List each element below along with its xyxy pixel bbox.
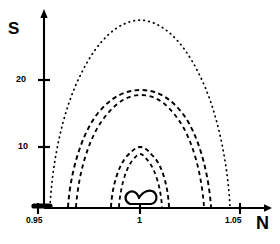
curve-second-arch-inner-dashed bbox=[76, 95, 204, 207]
x-tick-label-1: 1 bbox=[137, 216, 142, 225]
axis-lines bbox=[40, 9, 272, 212]
plot-canvas bbox=[0, 0, 280, 244]
y-axis-label: S bbox=[8, 20, 19, 37]
figure-panel: S N 20 10 0.95 1 1.05 bbox=[0, 0, 280, 244]
x-axis-arrowhead bbox=[264, 204, 272, 212]
y-tick-label-10: 10 bbox=[18, 142, 28, 151]
curve-second-arch-outer-dashed bbox=[68, 90, 211, 207]
y-tick-label-20: 20 bbox=[16, 75, 26, 84]
x-tick-label-095: 0.95 bbox=[26, 216, 43, 225]
x-axis-label: N bbox=[256, 214, 269, 232]
y-axis-arrowhead bbox=[40, 9, 47, 18]
x-tick-label-105: 1.05 bbox=[225, 216, 242, 225]
curve-outer-dotted bbox=[50, 20, 230, 207]
curve-inner-solid-lobed bbox=[126, 191, 157, 204]
